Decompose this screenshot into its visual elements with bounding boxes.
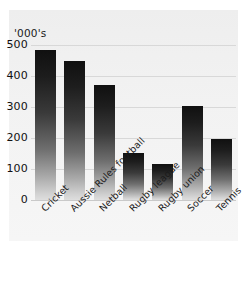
y-tick-label-100: 100 [2,162,28,175]
y-tick-label-400: 400 [2,69,28,82]
bar-aussie-rules-football [64,61,85,201]
bar-chart-figure: '000's 0100200300400500 CricketAussie Ru… [0,0,246,286]
bar-netball [94,85,115,200]
bar-rugby-league [123,153,144,200]
y-tick-label-500: 500 [2,38,28,51]
bar-tennis [211,139,232,200]
bar-rugby-union [152,164,173,200]
bars-group [31,45,236,200]
y-tick-label-300: 300 [2,100,28,113]
y-tick-label-200: 200 [2,131,28,144]
bar-cricket [35,50,56,200]
gridline-0 [31,200,236,201]
y-tick-label-0: 0 [2,193,28,206]
bar-soccer [182,106,203,200]
